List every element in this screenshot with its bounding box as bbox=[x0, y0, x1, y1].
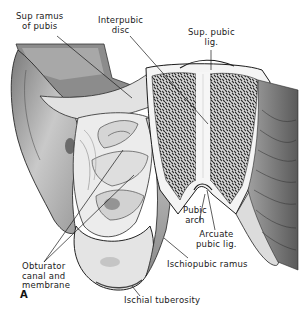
label-pubic-arch: Pubic arch bbox=[183, 206, 207, 225]
obturator-membrane bbox=[73, 113, 152, 237]
label-sup-ramus-of-pubis: Sup ramus of pubis bbox=[16, 12, 63, 31]
label-arcuate-pubic-lig: Arcuate pubic lig. bbox=[196, 230, 237, 249]
label-ischiopubic-ramus: Ischiopubic ramus bbox=[167, 260, 248, 270]
anatomical-figure: Sup ramus of pubis Interpubic disc Sup. … bbox=[0, 0, 304, 323]
panel-letter: A bbox=[20, 289, 28, 300]
label-obturator-canal-and-membrane: Obturator canal and membrane bbox=[22, 262, 70, 291]
label-ischial-tuberosity: Ischial tuberosity bbox=[124, 296, 200, 306]
leader-ischiopubic bbox=[164, 238, 188, 258]
label-interpubic-disc: Interpubic disc bbox=[98, 16, 143, 35]
label-sup-pubic-lig: Sup. pubic lig. bbox=[188, 28, 235, 47]
